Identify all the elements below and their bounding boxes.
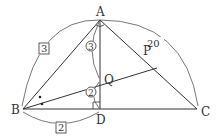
angle-dot-2	[41, 103, 44, 106]
measure-AQ: 3	[88, 42, 94, 52]
measure-BD: 2	[58, 122, 64, 133]
angle-dot-1	[39, 96, 42, 99]
point-label-Q: Q	[104, 73, 114, 87]
point-label-P: P	[143, 44, 151, 58]
point-label-B: B	[11, 103, 20, 117]
measure-AB: 3	[41, 43, 47, 54]
geometry-diagram: 3 2 20 3 2 A B C D P Q	[0, 0, 221, 136]
point-label-C: C	[201, 105, 210, 119]
point-label-D: D	[96, 113, 106, 127]
measure-QD: 2	[88, 88, 94, 98]
diagram-canvas: 3 2 20 3 2 A B C D P Q	[0, 0, 221, 136]
segment-AC	[100, 20, 197, 109]
point-label-A: A	[95, 5, 105, 19]
